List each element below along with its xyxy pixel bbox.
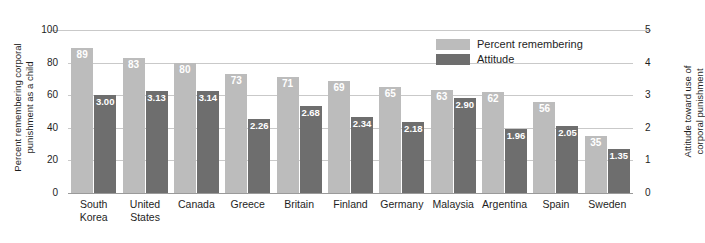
- legend-swatch-icon-percent-remembering: [436, 39, 470, 50]
- x-axis-label: Argentina: [479, 198, 530, 211]
- bar-attitude: 2.05: [556, 126, 578, 193]
- left-tick-label: 80: [32, 58, 58, 68]
- bar-percent-remembering: 62: [482, 92, 504, 193]
- legend-item-attitude: Attitude: [436, 53, 583, 66]
- legend-item-percent-remembering: Percent remembering: [436, 38, 583, 51]
- bar-attitude: 2.90: [454, 98, 476, 193]
- right-axis-title-line-2: corporal punishment: [693, 68, 704, 154]
- x-axis-label: Sweden: [582, 198, 633, 211]
- bar-percent-remembering: 73: [225, 74, 247, 193]
- left-tick-label: 0: [32, 188, 58, 198]
- bar-attitude: 3.00: [94, 95, 116, 193]
- bar-percent-remembering: 35: [585, 136, 607, 193]
- bar-value-label: 3.00: [94, 97, 116, 107]
- bar-value-label: 1.96: [505, 131, 527, 141]
- bar-value-label: 71: [277, 79, 299, 89]
- bar-value-label: 1.35: [608, 151, 630, 161]
- right-tick-label: 4: [645, 58, 671, 68]
- bar-value-label: 89: [71, 50, 93, 60]
- x-axis-label: SouthKorea: [68, 198, 119, 223]
- left-axis-title: Percent remembering corporal punishment …: [12, 23, 35, 193]
- x-axis-label: Germany: [376, 198, 427, 211]
- x-axis-label-line: United: [119, 198, 170, 211]
- x-axis-label-line: Malaysia: [428, 198, 479, 211]
- legend: Percent remembering Attitude: [436, 38, 583, 68]
- x-axis-label-line: Finland: [325, 198, 376, 211]
- x-axis-label-line: States: [119, 211, 170, 224]
- bar-value-label: 35: [585, 138, 607, 148]
- bar-attitude: 2.26: [248, 119, 270, 193]
- x-axis-label-line: Greece: [222, 198, 273, 211]
- x-axis-label-line: South: [68, 198, 119, 211]
- legend-label-percent-remembering: Percent remembering: [477, 39, 583, 50]
- bar-value-label: 2.26: [248, 121, 270, 131]
- bar-percent-remembering: 56: [533, 102, 555, 193]
- x-axis-label-line: Britain: [273, 198, 324, 211]
- right-axis-title-line-1: Attitude toward use of: [682, 66, 693, 158]
- bar-value-label: 2.68: [300, 108, 322, 118]
- x-axis-label: Britain: [273, 198, 324, 211]
- right-tick-label: 1: [645, 155, 671, 165]
- x-axis-label: UnitedStates: [119, 198, 170, 223]
- x-axis-label-line: Korea: [68, 211, 119, 224]
- bar-percent-remembering: 69: [328, 81, 350, 193]
- x-axis-label-line: Canada: [171, 198, 222, 211]
- bar-attitude: 3.14: [197, 91, 219, 193]
- x-axis-label: Canada: [171, 198, 222, 211]
- bar-attitude: 3.13: [146, 91, 168, 193]
- gridline: [68, 193, 633, 194]
- bar-value-label: 83: [123, 60, 145, 70]
- x-axis-label: Spain: [530, 198, 581, 211]
- left-tick-label: 40: [32, 123, 58, 133]
- bar-value-label: 62: [482, 94, 504, 104]
- x-axis-label-line: Germany: [376, 198, 427, 211]
- bar-attitude: 1.96: [505, 129, 527, 193]
- right-tick-label: 3: [645, 90, 671, 100]
- legend-swatch-icon-attitude: [436, 54, 470, 65]
- x-axis-category-labels: SouthKoreaUnitedStatesCanadaGreeceBritai…: [68, 198, 633, 238]
- right-tick-label: 0: [645, 188, 671, 198]
- legend-label-attitude: Attitude: [477, 54, 514, 65]
- x-axis-label-line: Argentina: [479, 198, 530, 211]
- bar-value-label: 2.90: [454, 100, 476, 110]
- bar-value-label: 63: [431, 92, 453, 102]
- left-tick-label: 60: [32, 90, 58, 100]
- left-tick-label: 20: [32, 155, 58, 165]
- bar-value-label: 2.34: [351, 119, 373, 129]
- x-axis-label-line: Sweden: [582, 198, 633, 211]
- x-axis-label: Finland: [325, 198, 376, 211]
- bar-attitude: 2.34: [351, 117, 373, 193]
- x-axis-label: Malaysia: [428, 198, 479, 211]
- bar-value-label: 2.18: [402, 124, 424, 134]
- left-axis-title-line-1: Percent remembering corporal: [12, 43, 23, 171]
- bar-value-label: 3.13: [146, 93, 168, 103]
- bar-attitude: 2.68: [300, 106, 322, 193]
- left-tick-label: 100: [32, 25, 58, 35]
- bar-attitude: 1.35: [608, 149, 630, 193]
- bar-percent-remembering: 80: [174, 63, 196, 193]
- x-axis-label: Greece: [222, 198, 273, 211]
- bar-value-label: 69: [328, 83, 350, 93]
- bar-value-label: 80: [174, 65, 196, 75]
- left-axis-title-line-2: punishment as a child: [23, 62, 34, 154]
- right-tick-label: 2: [645, 123, 671, 133]
- bar-value-label: 73: [225, 76, 247, 86]
- bar-attitude: 2.18: [402, 122, 424, 193]
- bar-value-label: 65: [379, 89, 401, 99]
- bar-percent-remembering: 89: [71, 48, 93, 193]
- bar-value-label: 2.05: [556, 128, 578, 138]
- right-axis-title: Attitude toward use of corporal punishme…: [682, 27, 705, 197]
- bar-percent-remembering: 71: [277, 77, 299, 193]
- bar-percent-remembering: 83: [123, 58, 145, 193]
- bar-value-label: 3.14: [197, 93, 219, 103]
- x-axis-label-line: Spain: [530, 198, 581, 211]
- bar-percent-remembering: 63: [431, 90, 453, 193]
- bar-percent-remembering: 65: [379, 87, 401, 193]
- bar-value-label: 56: [533, 104, 555, 114]
- right-tick-label: 5: [645, 25, 671, 35]
